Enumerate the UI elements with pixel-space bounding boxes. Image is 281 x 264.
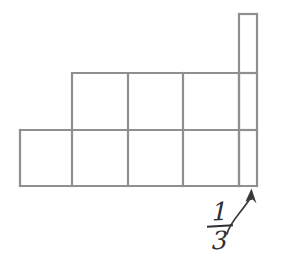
fraction-denominator: 3	[200, 227, 241, 253]
fraction-numerator: 1	[200, 198, 241, 225]
narrow-right-column	[239, 14, 268, 186]
fraction-label: 1 3	[200, 199, 240, 253]
callout-arrow-head	[246, 189, 257, 204]
bottom-row-cells	[20, 130, 257, 186]
figure-canvas: 1 3	[0, 0, 281, 264]
middle-row-cells	[72, 73, 239, 130]
